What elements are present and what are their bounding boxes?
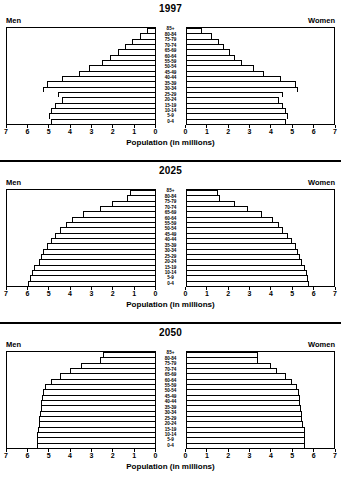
women-half-1997: 01234567 — [186, 27, 336, 137]
men-label-1997: Men — [6, 16, 21, 25]
axis-tick-label: 0 — [184, 452, 188, 460]
axis-tick-label: 0 — [154, 290, 158, 298]
axis-tick-label: 0 — [154, 452, 158, 460]
sex-labels-2050: Men Women — [0, 340, 341, 351]
men-bars-2025 — [7, 190, 155, 286]
axis-tick-label: 7 — [4, 128, 8, 136]
x-axis-label-1997: Population (in millions) — [0, 137, 341, 148]
axis-tick-label: 3 — [89, 290, 93, 298]
age-labels-1997: 85+80-8475-7970-7465-6960-6455-5950-5445… — [156, 27, 186, 125]
women-half-2025: 01234567 — [186, 189, 336, 299]
women-half-2050: 01234567 — [186, 351, 336, 461]
panel-title-1997: 1997 — [0, 0, 341, 16]
axis-tick-label: 4 — [68, 290, 72, 298]
axis-tick-label: 5 — [290, 128, 294, 136]
women-axis-2050: 01234567 — [186, 449, 336, 461]
bar-women-0-4 — [187, 281, 309, 286]
age-label-list-2050: 85+80-8475-7970-7465-6960-6455-5950-5445… — [156, 351, 186, 449]
bar-men-0-4 — [37, 443, 155, 448]
women-plot-1997 — [186, 27, 336, 125]
men-axis-2025: 76543210 — [6, 287, 156, 299]
bar-row — [187, 443, 335, 448]
sex-labels-1997: Men Women — [0, 16, 341, 27]
axis-tick-label: 1 — [132, 290, 136, 298]
axis-tick-label: 2 — [226, 128, 230, 136]
axis-tick-label: 2 — [111, 452, 115, 460]
women-label-2050: Women — [308, 340, 335, 349]
axis-tick-label: 1 — [205, 452, 209, 460]
axis-tick-label: 7 — [4, 290, 8, 298]
axis-tick-label: 5 — [47, 452, 51, 460]
age-labels-2025: 85+80-8475-7970-7465-6960-6455-5950-5445… — [156, 189, 186, 287]
women-plot-2050 — [186, 351, 336, 449]
bar-women-0-4 — [187, 443, 305, 448]
women-bars-2025 — [187, 190, 335, 286]
women-bars-2050 — [187, 352, 335, 448]
men-bars-2050 — [7, 352, 155, 448]
axis-tick-label: 0 — [184, 290, 188, 298]
axis-tick-label: 3 — [248, 290, 252, 298]
sex-labels-2025: Men Women — [0, 178, 341, 189]
bar-women-0-4 — [187, 119, 286, 124]
men-bars-1997 — [7, 28, 155, 124]
age-labels-2050: 85+80-8475-7970-7465-6960-6455-5950-5445… — [156, 351, 186, 449]
axis-tick-label: 2 — [111, 128, 115, 136]
x-axis-label-2025: Population (in millions) — [0, 299, 341, 310]
men-plot-2025 — [6, 189, 156, 287]
axis-tick-label: 7 — [333, 128, 337, 136]
axis-tick-label: 4 — [68, 128, 72, 136]
axis-tick-label: 0 — [184, 128, 188, 136]
women-axis-1997: 01234567 — [186, 125, 336, 137]
men-half-1997: 76543210 — [6, 27, 156, 137]
axis-tick-label: 7 — [333, 290, 337, 298]
bar-men-0-4 — [28, 281, 154, 286]
axis-tick-label: 6 — [312, 452, 316, 460]
women-label-2025: Women — [308, 178, 335, 187]
age-group-label: 0-4 — [156, 119, 186, 124]
axis-tick-label: 0 — [154, 128, 158, 136]
panel-2050: 2050 Men Women 76543210 85+80-8475-7970-… — [0, 324, 341, 484]
men-axis-1997: 76543210 — [6, 125, 156, 137]
bar-row — [7, 443, 155, 448]
axis-tick-label: 3 — [89, 128, 93, 136]
bar-men-0-4 — [51, 119, 154, 124]
axis-tick-label: 3 — [248, 128, 252, 136]
axis-tick-label: 6 — [312, 290, 316, 298]
axis-tick-label: 7 — [333, 452, 337, 460]
axis-tick-label: 4 — [269, 452, 273, 460]
axis-tick-label: 4 — [269, 128, 273, 136]
axis-tick-label: 5 — [47, 128, 51, 136]
pyramid-2025: 76543210 85+80-8475-7970-7465-6960-6455-… — [0, 189, 341, 299]
women-bars-1997 — [187, 28, 335, 124]
axis-tick-label: 6 — [25, 290, 29, 298]
axis-tick-label: 2 — [111, 290, 115, 298]
axis-tick-label: 1 — [205, 290, 209, 298]
axis-tick-label: 1 — [205, 128, 209, 136]
axis-tick-label: 1 — [132, 452, 136, 460]
bar-row — [187, 281, 335, 286]
women-plot-2025 — [186, 189, 336, 287]
axis-tick-label: 4 — [269, 290, 273, 298]
axis-tick-label: 4 — [68, 452, 72, 460]
men-half-2050: 76543210 — [6, 351, 156, 461]
age-group-label: 0-4 — [156, 281, 186, 286]
women-axis-2025: 01234567 — [186, 287, 336, 299]
axis-tick-label: 6 — [25, 128, 29, 136]
axis-tick-label: 3 — [89, 452, 93, 460]
axis-tick-label: 2 — [226, 452, 230, 460]
pyramid-1997: 76543210 85+80-8475-7970-7465-6960-6455-… — [0, 27, 341, 137]
men-label-2025: Men — [6, 178, 21, 187]
men-label-2050: Men — [6, 340, 21, 349]
bar-row — [7, 119, 155, 124]
axis-tick-label: 2 — [226, 290, 230, 298]
panel-2025: 2025 Men Women 76543210 85+80-8475-7970-… — [0, 162, 341, 322]
panel-title-2050: 2050 — [0, 324, 341, 340]
women-label-1997: Women — [308, 16, 335, 25]
axis-tick-label: 6 — [25, 452, 29, 460]
pyramid-2050: 76543210 85+80-8475-7970-7465-6960-6455-… — [0, 351, 341, 461]
bar-row — [7, 281, 155, 286]
age-label-list-2025: 85+80-8475-7970-7465-6960-6455-5950-5445… — [156, 189, 186, 287]
age-label-list-1997: 85+80-8475-7970-7465-6960-6455-5950-5445… — [156, 27, 186, 125]
axis-tick-label: 6 — [312, 128, 316, 136]
axis-tick-label: 5 — [290, 452, 294, 460]
